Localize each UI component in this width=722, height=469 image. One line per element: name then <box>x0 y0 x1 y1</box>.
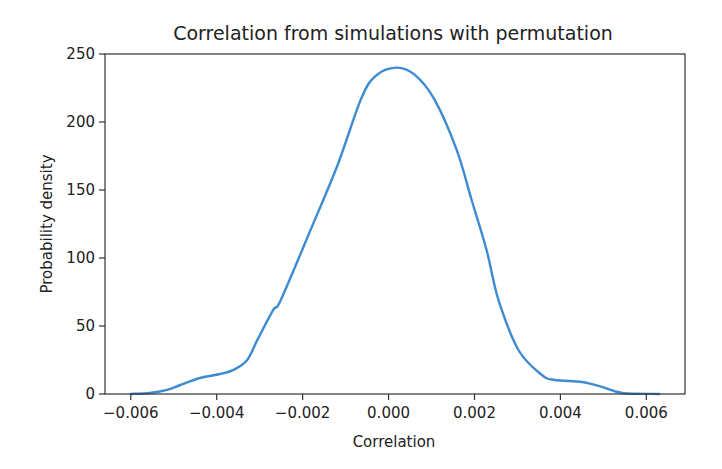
x-axis: −0.006−0.004−0.0020.0000.0020.0040.006 <box>103 394 668 422</box>
y-tick-label: 200 <box>66 113 95 131</box>
axes-frame <box>105 54 685 394</box>
x-tick-label: −0.004 <box>189 404 245 422</box>
chart: Correlation from simulations with permut… <box>0 0 722 469</box>
x-tick-label: 0.000 <box>367 404 410 422</box>
y-tick-label: 100 <box>66 249 95 267</box>
y-axis: 050100150200250 <box>66 45 105 403</box>
y-tick-label: 150 <box>66 181 95 199</box>
x-tick-label: 0.006 <box>625 404 668 422</box>
x-tick-label: −0.002 <box>275 404 331 422</box>
x-axis-label: Correlation <box>353 433 436 451</box>
y-axis-label: Probability density <box>38 154 56 293</box>
y-tick-label: 250 <box>66 45 95 63</box>
chart-canvas: Correlation from simulations with permut… <box>0 0 722 469</box>
x-tick-label: 0.004 <box>539 404 582 422</box>
chart-title: Correlation from simulations with permut… <box>173 22 613 44</box>
y-tick-label: 50 <box>76 317 95 335</box>
plot-area <box>105 54 685 394</box>
x-tick-label: 0.002 <box>453 404 496 422</box>
density-curve <box>131 68 659 394</box>
y-tick-label: 0 <box>85 385 95 403</box>
x-tick-label: −0.006 <box>103 404 159 422</box>
